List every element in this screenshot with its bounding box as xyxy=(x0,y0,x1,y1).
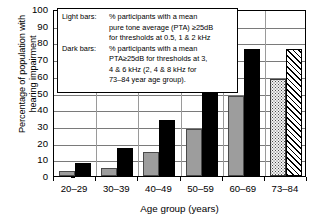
x-tick-mark xyxy=(180,177,181,181)
y-tick-label: 30 xyxy=(24,122,48,132)
bar-dark xyxy=(75,163,91,176)
x-tick-mark xyxy=(222,177,223,181)
legend-light-key: Light bars: xyxy=(62,12,109,23)
legend-row-light: Light bars: % participants with a mean p… xyxy=(62,12,233,44)
y-tick-label: 90 xyxy=(24,22,48,32)
legend-dark-line-0: % participants with a mean xyxy=(109,44,233,55)
y-tick-mark xyxy=(71,177,75,178)
bar-dark xyxy=(202,89,218,176)
y-tick-label: 70 xyxy=(24,55,48,65)
bar-dark xyxy=(244,49,260,176)
x-tick-mark xyxy=(53,177,54,181)
legend-light-line-1: pure tone average (PTA) ≥25dB xyxy=(109,23,233,34)
legend-dark-line-3: 73–84 year age group). xyxy=(109,75,233,86)
bar-light xyxy=(143,152,159,176)
legend-light-line-0: % participants with a mean xyxy=(109,12,233,23)
legend-dark-key: Dark bars: xyxy=(62,44,109,55)
y-axis-tick-labels: 1009080706050403020100 xyxy=(22,0,48,221)
y-tick-label: 80 xyxy=(24,39,48,49)
bar-dark xyxy=(117,148,133,176)
bar-group xyxy=(265,11,307,176)
legend-light-line-2: for thresholds at 0.5, 1 & 2 kHz xyxy=(109,33,233,44)
hearing-impairment-bar-chart: Percentage of population with hearing im… xyxy=(0,0,316,221)
bar-light xyxy=(270,79,286,176)
y-tick-label: 50 xyxy=(24,89,48,99)
y-tick-label: 0 xyxy=(24,172,48,182)
bar-light xyxy=(101,168,117,176)
x-tick-mark xyxy=(306,177,307,181)
y-tick-label: 20 xyxy=(24,139,48,149)
y-tick-label: 10 xyxy=(24,156,48,166)
x-axis-title: Age group (years) xyxy=(53,203,306,214)
legend-light-text: % participants with a mean pure tone ave… xyxy=(109,12,233,44)
x-tick-mark xyxy=(264,177,265,181)
bar-light xyxy=(228,96,244,176)
legend-dark-line-1: PTA≥25dB for thresholds at 3, xyxy=(109,54,233,65)
bar-light xyxy=(59,171,75,176)
y-tick-label: 60 xyxy=(24,72,48,82)
legend-box: Light bars: % participants with a mean p… xyxy=(57,8,238,93)
x-tick-label: 73–84 xyxy=(257,184,313,194)
x-tick-mark xyxy=(95,177,96,181)
legend-dark-text: % participants with a mean PTA≥25dB for … xyxy=(109,44,233,86)
legend-row-dark: Dark bars: % participants with a mean PT… xyxy=(62,44,233,86)
bar-dark xyxy=(159,120,175,176)
legend-dark-line-2: 4 & 6 kHz (2, 4 & 8 kHz for xyxy=(109,65,233,76)
bar-light xyxy=(186,129,202,176)
y-tick-label: 100 xyxy=(24,5,48,15)
x-tick-mark xyxy=(137,177,138,181)
bar-dark xyxy=(286,49,302,176)
y-tick-label: 40 xyxy=(24,105,48,115)
